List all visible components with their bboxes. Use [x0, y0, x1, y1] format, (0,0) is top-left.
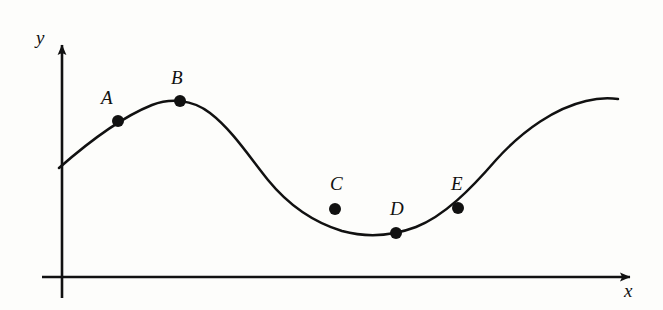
point-label-a: A	[101, 88, 113, 107]
point-label-d: D	[390, 199, 404, 218]
point-marker-e	[452, 202, 464, 214]
graph-canvas	[0, 0, 663, 310]
x-axis-label: x	[624, 281, 632, 300]
point-marker-d	[390, 227, 402, 239]
y-axis-label: y	[36, 28, 44, 47]
point-label-e: E	[451, 174, 463, 193]
point-label-c: C	[330, 174, 343, 193]
function-curve	[59, 98, 618, 235]
point-marker-b	[174, 95, 186, 107]
point-marker-a	[112, 115, 124, 127]
marked-points-group	[112, 95, 464, 239]
point-marker-c	[329, 203, 341, 215]
point-label-b: B	[171, 68, 183, 87]
graph-figure: y x ABCDE	[0, 0, 663, 310]
